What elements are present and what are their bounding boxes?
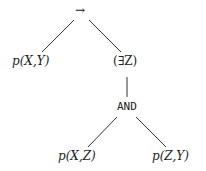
edge-root-left: [42, 20, 74, 52]
and-right-leaf-node: p(Z,Y): [152, 150, 189, 162]
edge-and-left: [88, 117, 117, 147]
tree-edges: [0, 0, 206, 171]
left-leaf-node: p(X,Y): [12, 55, 49, 67]
edge-and-right: [136, 117, 166, 147]
root-implies-node: →: [75, 4, 85, 16]
exists-node: (∃Z): [113, 55, 137, 67]
edge-root-exists: [89, 20, 121, 52]
formula-tree-diagram: → p(X,Y) (∃Z) AND p(X,Z) p(Z,Y): [0, 0, 206, 171]
and-node: AND: [117, 101, 137, 112]
and-left-leaf-node: p(X,Z): [58, 150, 96, 162]
